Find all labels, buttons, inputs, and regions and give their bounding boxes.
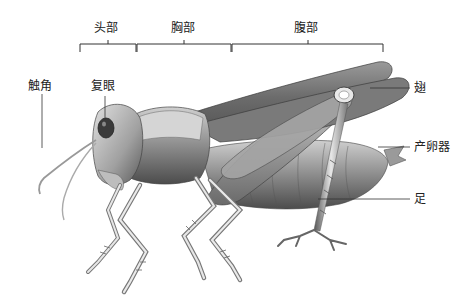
segment-label-head: 头部	[94, 21, 118, 35]
part-label-leg: 足	[414, 192, 426, 206]
segment-brackets	[80, 40, 383, 52]
part-label-compound-eye: 复眼	[91, 79, 115, 93]
part-label-ovipositor: 产卵器	[414, 140, 450, 154]
part-label-wing: 翅	[414, 81, 426, 95]
part-label-antenna: 触角	[28, 79, 52, 93]
segment-label-thorax: 胸部	[171, 21, 195, 35]
grasshopper-illustration	[0, 0, 476, 305]
segment-label-abdomen: 腹部	[294, 21, 318, 35]
grasshopper-diagram: 头部 胸部 腹部 触角 复眼 翅 产卵器 足	[0, 0, 476, 305]
